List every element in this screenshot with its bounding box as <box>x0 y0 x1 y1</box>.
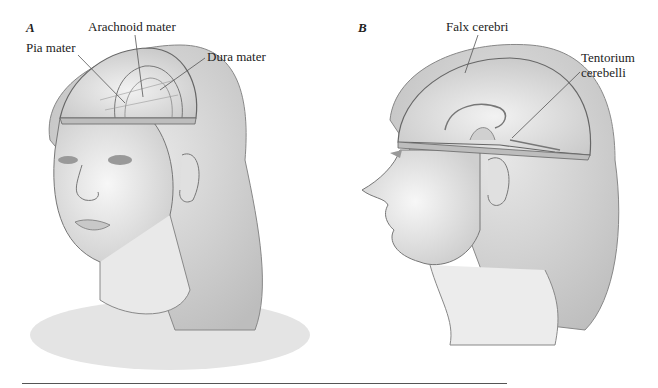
panel-letter-a: A <box>26 20 35 36</box>
illustration-canvas <box>0 0 658 388</box>
label-tentorium-cerebelli: Tentorium cerebelli <box>581 50 651 80</box>
label-arachnoid-mater: Arachnoid mater <box>88 19 176 34</box>
figure-bottom-rule <box>22 383 507 384</box>
panel-letter-b: B <box>358 20 367 36</box>
label-falx-cerebri: Falx cerebri <box>446 19 508 34</box>
head-b-illustration <box>362 44 619 345</box>
label-pia-mater: Pia mater <box>26 40 75 55</box>
label-dura-mater: Dura mater <box>207 49 266 64</box>
head-a-illustration <box>30 45 310 370</box>
